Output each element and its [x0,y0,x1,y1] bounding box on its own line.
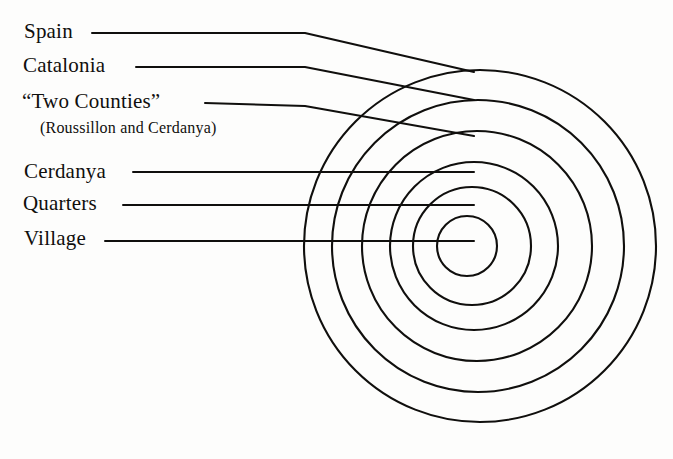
label-spain: Spain [24,21,73,42]
leader-line-catalonia [136,67,474,100]
label-two-counties: “Two Counties” [22,91,160,112]
label-village: Village [24,228,86,249]
leader-lines-group [92,33,474,241]
label-two-counties-subtitle: (Roussillon and Cerdanya) [40,120,217,136]
ring-village [437,216,497,276]
rings-group [304,70,656,422]
label-cerdanya: Cerdanya [24,161,106,182]
label-catalonia: Catalonia [23,55,105,76]
ring-spain [304,70,656,422]
ring-catalonia [332,100,624,392]
label-quarters: Quarters [23,193,97,214]
figure-container: Spain Catalonia “Two Counties” (Roussill… [0,0,673,459]
